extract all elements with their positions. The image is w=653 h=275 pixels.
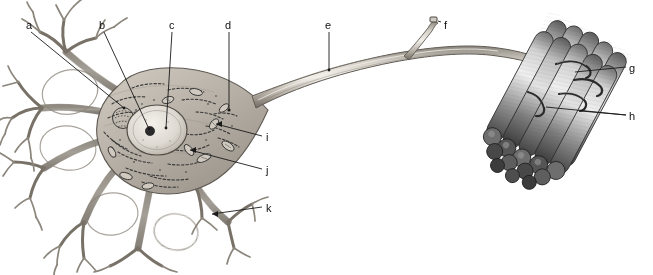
label-e: e — [325, 20, 331, 31]
dot-c — [165, 127, 168, 130]
label-a: a — [26, 20, 32, 31]
dot-e — [328, 69, 331, 72]
leader-f — [438, 21, 441, 22]
label-j: j — [266, 165, 268, 176]
motor-neuron-illustration — [0, 0, 653, 275]
label-i: i — [266, 132, 268, 143]
label-d: d — [225, 20, 231, 31]
dot-d — [227, 108, 230, 111]
label-b: b — [99, 20, 105, 31]
dot-a — [123, 107, 126, 110]
figure-canvas: a b c d e f g h i j k — [0, 0, 653, 275]
label-h: h — [629, 111, 635, 122]
label-k: k — [266, 203, 272, 214]
label-f: f — [444, 20, 447, 31]
collateral-terminal-bouton — [430, 17, 437, 22]
dot-b — [147, 127, 150, 130]
nucleus — [127, 105, 187, 155]
label-c: c — [169, 20, 175, 31]
label-g: g — [629, 63, 635, 74]
